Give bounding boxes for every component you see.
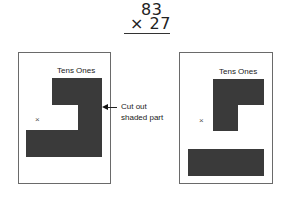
- left-shaded-bottom-bar[interactable]: [26, 130, 102, 157]
- annotation-line2: shaded part: [121, 113, 163, 122]
- right-column-labels: Tens Ones: [219, 67, 257, 76]
- multiplier: × 27: [130, 16, 171, 32]
- left-column-labels: Tens Ones: [57, 66, 95, 75]
- problem-underline: [124, 33, 170, 34]
- arrow-line: [107, 107, 117, 108]
- right-shaded-bottom-bar[interactable]: [188, 149, 264, 176]
- right-place-marker: ×: [199, 117, 204, 125]
- annotation-line1: Cut out: [121, 102, 147, 111]
- left-place-marker: ×: [35, 116, 40, 124]
- right-shaded-vertical[interactable]: [213, 79, 238, 131]
